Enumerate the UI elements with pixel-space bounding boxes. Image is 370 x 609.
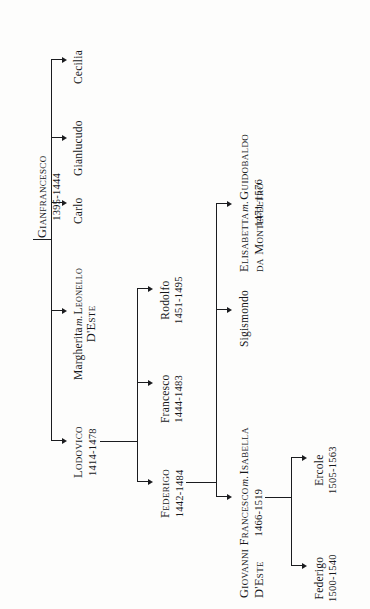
arrowhead-francesco [148,380,153,386]
node-ercole: Ercole 1505-1563 [313,446,339,494]
marriage-symbol: m. [239,200,250,213]
connector-giovanni-francesco-spine [291,457,292,566]
arrowhead-carlo [62,200,67,206]
marriage-symbol: m. [73,315,84,328]
node-carlo-name: Carlo [72,197,85,224]
node-rodolfo-name: Rodolfo [159,276,172,324]
arrowhead-sigismondo [227,307,232,313]
marriage-symbol: m. [239,474,250,487]
node-elisabetta-spouse: Guidobaldo [237,134,251,200]
node-elisabetta-spouse-line2-wrap: da Montefeltro [253,183,267,272]
arrowhead-elisabetta [227,201,232,207]
arrowhead-cecilia [62,57,67,63]
node-lodovico-dates: 1414-1478 [87,426,99,478]
node-cecilia-name: Cecilia [72,50,85,84]
node-federigo2-name: Federigo [313,554,326,602]
node-ercole-name: Ercole [313,446,326,494]
node-giovanni-francesco-spouse-line2-wrap: D'Este [253,561,267,598]
node-ercole-dates: 1505-1563 [327,446,339,494]
node-sigismondo: Sigismondo [238,290,251,347]
node-elisabetta-name: Elisabettam.Guidobaldo [238,134,252,272]
connector-gianfrancesco-spine [51,59,52,441]
node-lodovico-name: Lodovico [72,426,86,478]
node-giovanni-francesco-spouse-line2: D'Este [253,561,267,598]
connector-federigo-spine [216,203,217,497]
arrowhead-gianlucudo [62,135,67,141]
node-giovanni-francesco-name: Giovanni Francescom.Isabella [238,427,252,598]
node-rodolfo-dates: 1451-1495 [173,276,185,324]
connector-giovanni-francesco-stem [265,497,292,498]
node-francesco: Francesco 1444-1483 [159,375,185,423]
node-gianlucudo: Gianlucudo [72,120,85,176]
arrowhead-ercole [302,455,307,461]
node-francesco-name: Francesco [159,375,172,423]
node-gianfrancesco: Gianfrancesco 1395-1444 [36,155,63,238]
node-rodolfo: Rodolfo 1451-1495 [159,276,185,324]
node-margherita-spouse-line2: D'Este [85,268,99,380]
arrowhead-margherita [62,308,67,314]
node-gianlucudo-name: Gianlucudo [72,120,85,176]
node-giovanni-francesco-spouse: Isabella [237,427,251,474]
node-margherita-spouse: Leonello [72,268,84,315]
node-gianfrancesco-dates: 1395-1444 [51,155,63,238]
connector-gianfrancesco-stem [33,239,52,240]
node-federigo-dates: 1442-1484 [174,469,186,518]
node-gianfrancesco-name: Gianfrancesco [36,155,50,238]
arrowhead-rodolfo [148,286,153,292]
node-federigo-name: Federigo [159,469,173,518]
arrowhead-lodovico [62,438,67,444]
node-margherita-name: Margheritam.Leonello [72,268,85,380]
arrowhead-federigo [148,479,153,485]
family-tree-diagram: Gianfrancesco 1395-1444 Cecilia Gianlucu… [0,0,370,609]
node-federigo2-dates: 1500-1540 [327,554,339,602]
node-francesco-dates: 1444-1483 [173,375,185,423]
node-margherita: Margheritam.Leonello D'Este [72,268,99,380]
connector-federigo-stem [186,482,217,483]
node-elisabetta-spouse-line2: da Montefeltro [253,183,267,272]
arrowhead-giovanni-francesco [227,494,232,500]
connector-lodovico-spine [137,288,138,482]
node-federigo2: Federigo 1500-1540 [313,554,339,602]
connector-lodovico-stem [100,441,138,442]
node-carlo: Carlo [72,197,85,224]
node-sigismondo-name: Sigismondo [238,290,251,347]
node-lodovico: Lodovico 1414-1478 [72,426,99,478]
node-federigo: Federigo 1442-1484 [159,469,186,518]
node-cecilia: Cecilia [72,50,85,84]
arrowhead-federigo2 [302,563,307,569]
